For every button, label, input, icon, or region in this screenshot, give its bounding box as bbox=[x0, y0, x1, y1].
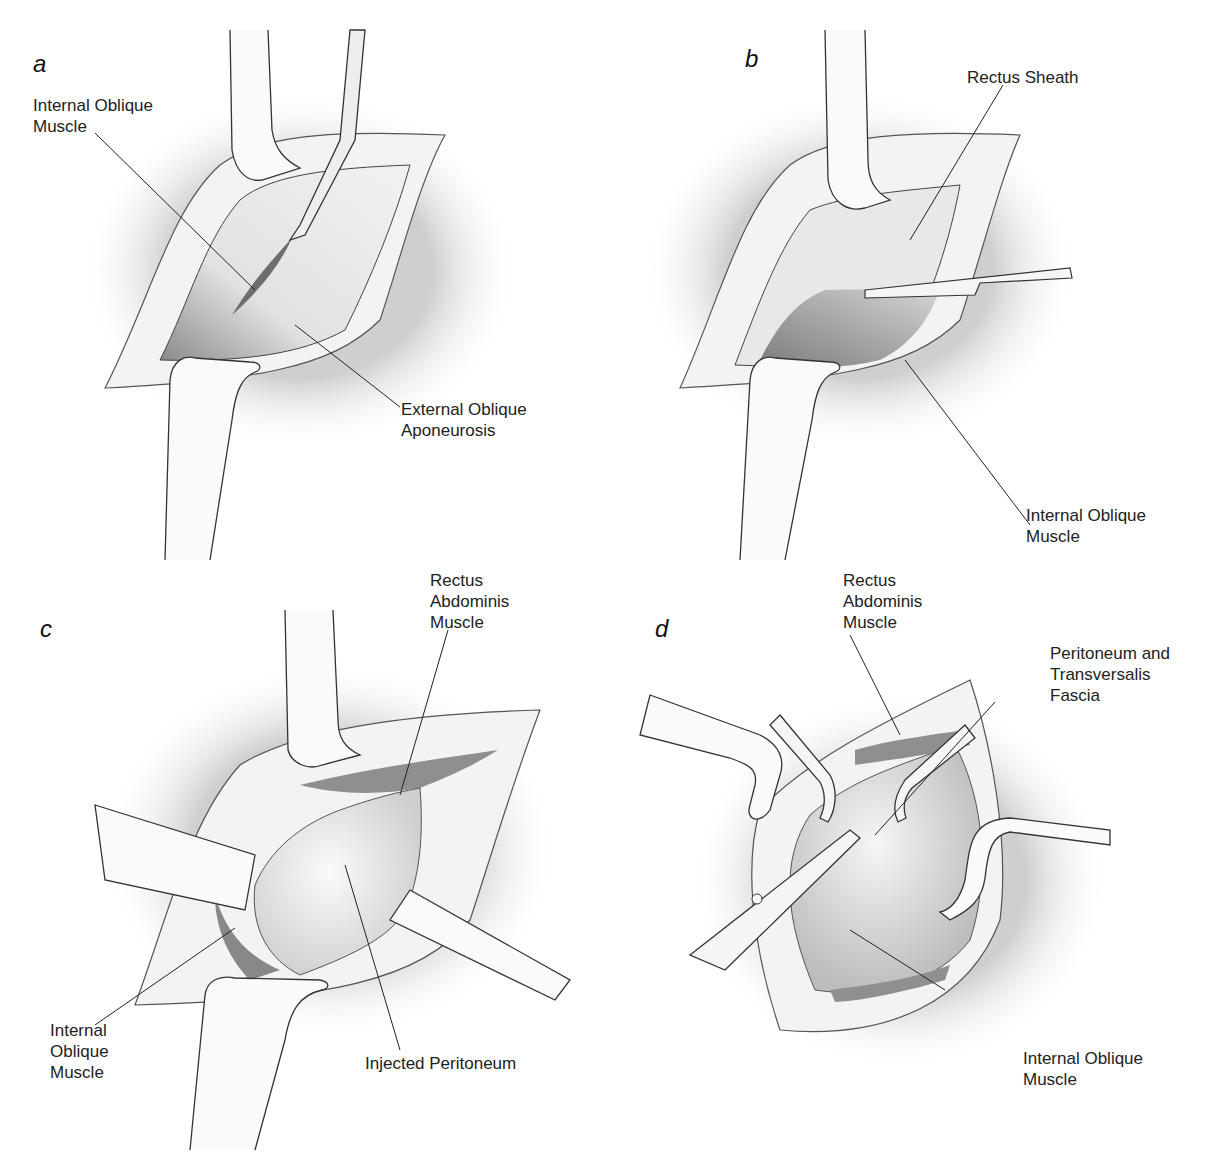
label-rectus-sheath: Rectus Sheath bbox=[967, 67, 1079, 88]
panel-letter: b bbox=[745, 45, 758, 73]
label-internal-oblique-muscle: Internal Oblique Muscle bbox=[1026, 505, 1146, 547]
label-rectus-abdominis-muscle: Rectus Abdominis Muscle bbox=[430, 570, 509, 633]
panel-letter: c bbox=[40, 615, 52, 643]
label-internal-oblique-muscle: Internal Oblique Muscle bbox=[33, 95, 153, 137]
panel-d: d Rectus Abdominis Muscle Peritoneum and… bbox=[610, 560, 1221, 1158]
panel-b: b Rectus Sheath Internal Oblique Muscle bbox=[610, 0, 1221, 580]
panel-letter: a bbox=[33, 50, 46, 78]
panel-b-illustration bbox=[610, 0, 1221, 580]
label-external-oblique-aponeurosis: External Oblique Aponeurosis bbox=[401, 399, 527, 441]
panel-a: a Internal Oblique Muscle External Obliq… bbox=[0, 0, 610, 580]
panel-letter: d bbox=[655, 615, 668, 643]
label-internal-oblique-muscle: Internal Oblique Muscle bbox=[1023, 1048, 1143, 1090]
label-internal-oblique-muscle: Internal Oblique Muscle bbox=[50, 1020, 109, 1083]
panel-c: c Rectus Abdominis Muscle Internal Obliq… bbox=[0, 560, 610, 1158]
label-peritoneum-transversalis-fascia: Peritoneum and Transversalis Fascia bbox=[1050, 643, 1170, 706]
scissors-pivot-icon bbox=[752, 894, 762, 904]
panel-a-illustration bbox=[0, 0, 610, 580]
label-injected-peritoneum: Injected Peritoneum bbox=[365, 1053, 516, 1074]
label-rectus-abdominis-muscle: Rectus Abdominis Muscle bbox=[843, 570, 922, 633]
